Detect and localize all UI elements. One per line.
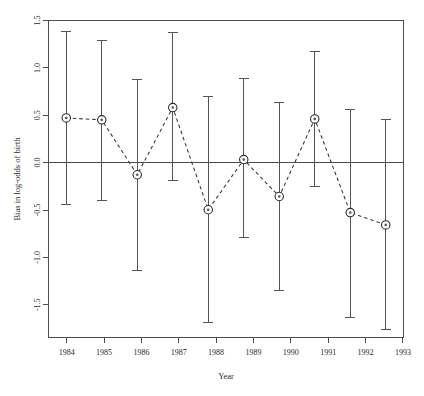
data-point-1985[interactable]: [98, 116, 106, 124]
data-point-1993[interactable]: [382, 221, 390, 229]
y-tick-label--1.0: -1.0: [33, 251, 42, 264]
x-tick-label-1985: 1985: [96, 348, 112, 357]
data-point-1992[interactable]: [346, 208, 354, 216]
x-tick-label-1989: 1989: [246, 348, 262, 357]
x-tick-label-1993: 1993: [395, 348, 411, 357]
y-tick-label--1.5: -1.5: [33, 298, 42, 311]
y-tick-label-1.5: 1.5: [33, 16, 42, 26]
data-point-dot-1989: [242, 158, 245, 161]
data-point-1984[interactable]: [62, 114, 70, 122]
y-tick-label-1.0: 1.0: [33, 63, 42, 73]
x-tick-label-1988: 1988: [208, 348, 224, 357]
data-point-1991[interactable]: [311, 115, 319, 123]
data-point-dot-1988: [207, 208, 210, 211]
data-point-dot-1985: [100, 119, 103, 122]
data-point-dot-1991: [313, 118, 316, 121]
data-point-dot-1993: [384, 224, 387, 227]
data-point-1989[interactable]: [240, 155, 248, 163]
x-tick-label-1987: 1987: [171, 348, 187, 357]
data-point-1987[interactable]: [169, 103, 177, 111]
data-point-dot-1990: [278, 195, 281, 198]
data-point-dot-1984: [65, 117, 68, 120]
x-tick-label-1992: 1992: [358, 348, 374, 357]
x-axis-title: Year: [218, 371, 234, 381]
x-tick-label-1986: 1986: [133, 348, 149, 357]
data-point-dot-1992: [349, 211, 352, 214]
y-axis-title: Bias in log-odds of birth: [12, 137, 22, 221]
x-tick-label-1991: 1991: [320, 348, 336, 357]
chart-background: [0, 0, 424, 396]
y-tick-label--0.5: -0.5: [33, 204, 42, 217]
errorbar-chart: 1.5 1.0 0.5 0.0 -0.5 -1.0 -1.5 Bias in l…: [0, 0, 424, 396]
y-tick-label-0.0: 0.0: [33, 158, 42, 168]
y-tick-label-0.5: 0.5: [33, 110, 42, 120]
data-point-dot-1987: [171, 106, 174, 109]
data-point-1990[interactable]: [275, 192, 283, 200]
data-point-1988[interactable]: [204, 206, 212, 214]
data-point-dot-1986: [136, 173, 139, 176]
chart-figure: 1.5 1.0 0.5 0.0 -0.5 -1.0 -1.5 Bias in l…: [0, 0, 424, 396]
data-point-1986[interactable]: [133, 171, 141, 179]
x-tick-label-1990: 1990: [283, 348, 299, 357]
x-tick-label-1984: 1984: [59, 348, 75, 357]
